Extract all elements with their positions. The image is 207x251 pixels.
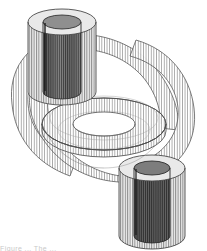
figure-container: Figure ... The ... <box>0 0 207 251</box>
lower-tube <box>117 154 187 251</box>
upper-tube-inner-top-ellipse <box>43 15 81 29</box>
upper-tube <box>26 8 98 108</box>
lower-tube-inner-top-ellipse <box>134 161 170 175</box>
figure-caption: Figure ... The ... <box>0 244 207 251</box>
wireframe-figure <box>0 0 207 251</box>
